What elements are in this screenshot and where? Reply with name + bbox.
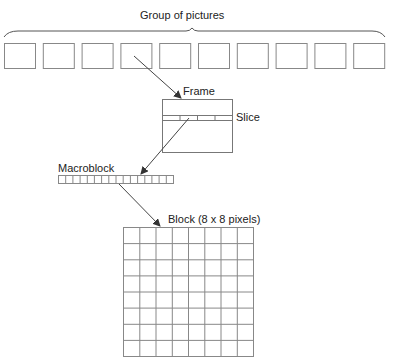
arrow-to-block (119, 184, 160, 226)
block-label: Block (8 x 8 pixels) (168, 214, 260, 225)
frame-thumb (315, 44, 346, 69)
frame-thumb (121, 44, 152, 69)
frame-thumb (199, 44, 230, 69)
frame-thumb (354, 44, 385, 69)
frame-thumb (82, 44, 113, 69)
frame-thumb (5, 44, 36, 69)
macroblock-label: Macroblock (58, 163, 114, 174)
arrow-to-frame (134, 56, 181, 98)
macroblock-strip (59, 176, 174, 184)
slice-label: Slice (236, 112, 260, 123)
diagram-canvas (0, 0, 398, 361)
block-grid (124, 228, 254, 357)
frame-thumb (237, 44, 268, 69)
frame-box (163, 100, 233, 153)
frame-label: Frame (183, 86, 215, 97)
frames-row (5, 44, 385, 69)
frame-thumb (276, 44, 307, 69)
frame-thumb (43, 44, 74, 69)
arrow-to-macroblock (141, 118, 189, 174)
frame-thumb (160, 44, 191, 69)
gop-title: Group of pictures (140, 10, 224, 21)
slice-dividers (180, 116, 215, 121)
group-brace (4, 28, 385, 37)
